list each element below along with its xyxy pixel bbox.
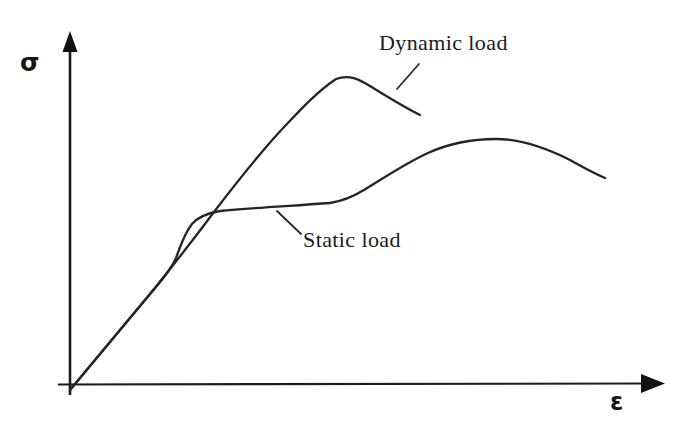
static-load-curve [70, 139, 605, 390]
static-load-annotation: Static load [303, 229, 401, 251]
y-axis-arrowhead [63, 31, 78, 52]
y-axis-label-sigma: σ [20, 50, 39, 75]
static-load-leader-line [277, 211, 301, 234]
x-axis-line [58, 384, 650, 385]
x-axis-label-epsilon: ε [610, 390, 623, 414]
plot-canvas [0, 0, 691, 426]
axes-group [58, 31, 665, 395]
leader-lines-group [277, 64, 419, 234]
x-axis-arrowhead [641, 374, 665, 393]
dynamic-load-leader-line [397, 64, 419, 89]
stress-strain-figure: σ ε Dynamic load Static load [0, 0, 691, 426]
dynamic-load-annotation: Dynamic load [379, 32, 508, 54]
